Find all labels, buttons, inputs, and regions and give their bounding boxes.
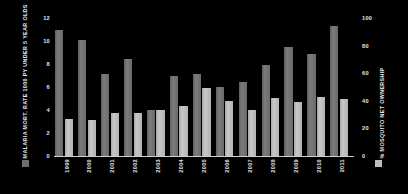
bar-mosquito-net-1999: [65, 119, 73, 156]
bar-group-2009: [284, 18, 307, 156]
bar-mosquito-net-2002: [134, 113, 142, 156]
bar-malaria-mortality-2010: [307, 54, 315, 156]
right-tick-80: 80: [362, 43, 374, 49]
x-tick-2003: 2003: [155, 159, 161, 173]
left-axis-title: MALARIA MORT. RATE 1000 PY UNDER 5 YEAR …: [22, 4, 28, 158]
bar-group-2003: [147, 18, 170, 156]
bar-malaria-mortality-2005: [193, 74, 201, 156]
right-tick-0: 0: [362, 153, 374, 159]
x-tick-2000: 2000: [86, 159, 92, 173]
bar-malaria-mortality-2003: [147, 110, 155, 156]
right-tick-40: 40: [362, 98, 374, 104]
bar-mosquito-net-2003: [156, 110, 164, 156]
x-tick-1999: 1999: [64, 159, 70, 173]
malaria-mortality-legend-swatch: [22, 160, 29, 167]
left-tick-6: 6: [38, 84, 50, 90]
bar-malaria-mortality-2000: [78, 40, 86, 156]
x-axis-line: [54, 156, 354, 157]
left-tick-12: 12: [38, 15, 50, 21]
bar-group-1999: [55, 18, 78, 156]
left-tick-4: 4: [38, 107, 50, 113]
left-tick-10: 10: [38, 38, 50, 44]
x-tick-2005: 2005: [201, 159, 207, 173]
x-tick-2009: 2009: [293, 159, 299, 173]
x-tick-2001: 2001: [109, 159, 115, 173]
x-tick-2006: 2006: [224, 159, 230, 173]
bar-mosquito-net-2006: [225, 101, 233, 156]
bar-malaria-mortality-1999: [55, 30, 63, 157]
bar-malaria-mortality-2001: [101, 74, 109, 156]
left-tick-2: 2: [38, 130, 50, 136]
bar-group-2001: [101, 18, 124, 156]
bar-group-2004: [170, 18, 193, 156]
bar-group-2007: [239, 18, 262, 156]
bar-group-2006: [216, 18, 239, 156]
bar-group-2000: [78, 18, 101, 156]
right-tick-20: 20: [362, 125, 374, 131]
x-tick-2002: 2002: [132, 159, 138, 173]
bar-group-2002: [124, 18, 147, 156]
bar-group-2005: [193, 18, 216, 156]
bar-malaria-mortality-2002: [124, 59, 132, 156]
bar-mosquito-net-2004: [179, 106, 187, 156]
bar-mosquito-net-2005: [202, 88, 210, 156]
bar-group-2011: [330, 18, 353, 156]
mosquito-net-legend-swatch: [375, 160, 382, 167]
bar-malaria-mortality-2004: [170, 76, 178, 157]
plot-area: [54, 18, 352, 156]
chart-container: MALARIA MORT. RATE 1000 PY UNDER 5 YEAR …: [0, 0, 408, 194]
right-tick-100: 100: [362, 15, 374, 21]
bar-malaria-mortality-2011: [330, 26, 338, 156]
right-tick-60: 60: [362, 70, 374, 76]
bar-mosquito-net-2010: [317, 97, 325, 156]
x-tick-2008: 2008: [270, 159, 276, 173]
bar-mosquito-net-2008: [271, 98, 279, 156]
bar-mosquito-net-2007: [248, 110, 256, 156]
x-tick-2007: 2007: [247, 159, 253, 173]
right-axis-title: % MOSQUITO NET OWNERSHIP: [379, 67, 385, 158]
left-tick-0: 0: [38, 153, 50, 159]
x-tick-2004: 2004: [178, 159, 184, 173]
bar-malaria-mortality-2008: [262, 65, 270, 156]
bar-group-2008: [262, 18, 285, 156]
bar-malaria-mortality-2006: [216, 87, 224, 156]
bar-mosquito-net-2009: [294, 102, 302, 156]
bar-malaria-mortality-2009: [284, 47, 292, 156]
bar-malaria-mortality-2007: [239, 82, 247, 156]
bar-mosquito-net-2011: [340, 99, 348, 156]
bar-group-2010: [307, 18, 330, 156]
x-tick-2010: 2010: [316, 159, 322, 173]
x-tick-2011: 2011: [339, 159, 345, 172]
bar-mosquito-net-2000: [88, 120, 96, 156]
bar-mosquito-net-2001: [111, 113, 119, 156]
left-tick-8: 8: [38, 61, 50, 67]
